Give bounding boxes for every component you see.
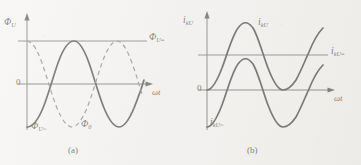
panel-b: ikU 0 ωt ikU= ikU ikU~ (b) <box>180 0 360 165</box>
panel-a-level-line-label: ΦU= <box>149 33 164 43</box>
panel-a-dashed-curve-label: Φ0 <box>81 120 91 130</box>
panel-a-y-axis <box>24 13 29 130</box>
panel-a-caption: (a) <box>68 146 78 155</box>
panel-a-y-axis-label: ΦU <box>4 18 16 28</box>
panel-b-x-axis <box>198 87 335 92</box>
waveform-figure: ΦU 0 ωt ΦU= ΦU~ Φ0 (a) <box>0 0 361 165</box>
panel-b-curve-upper <box>207 23 323 90</box>
panel-b-origin-label: 0 <box>197 84 202 93</box>
panel-b-y-axis-label: ikU <box>183 16 193 26</box>
panel-b-upper-curve-label: ikU <box>258 18 268 28</box>
panel-a-origin-label: 0 <box>16 78 21 87</box>
panel-b-lower-curve-label: ikU~ <box>210 118 223 128</box>
panel-a-solid-curve-label: ΦU~ <box>31 122 46 132</box>
panel-a-plot <box>0 0 180 165</box>
panel-b-y-axis <box>204 11 209 130</box>
panel-a: ΦU 0 ωt ΦU= ΦU~ Φ0 (a) <box>0 0 180 165</box>
panel-b-caption: (b) <box>247 146 258 155</box>
panel-a-x-axis-label: ωt <box>152 88 160 97</box>
panel-b-plot <box>180 0 361 165</box>
panel-b-level-line-label: ikU= <box>331 47 345 57</box>
panel-a-x-axis <box>18 81 153 86</box>
panel-b-x-axis-label: ωt <box>334 94 342 103</box>
panel-b-curve-lower <box>207 59 323 127</box>
